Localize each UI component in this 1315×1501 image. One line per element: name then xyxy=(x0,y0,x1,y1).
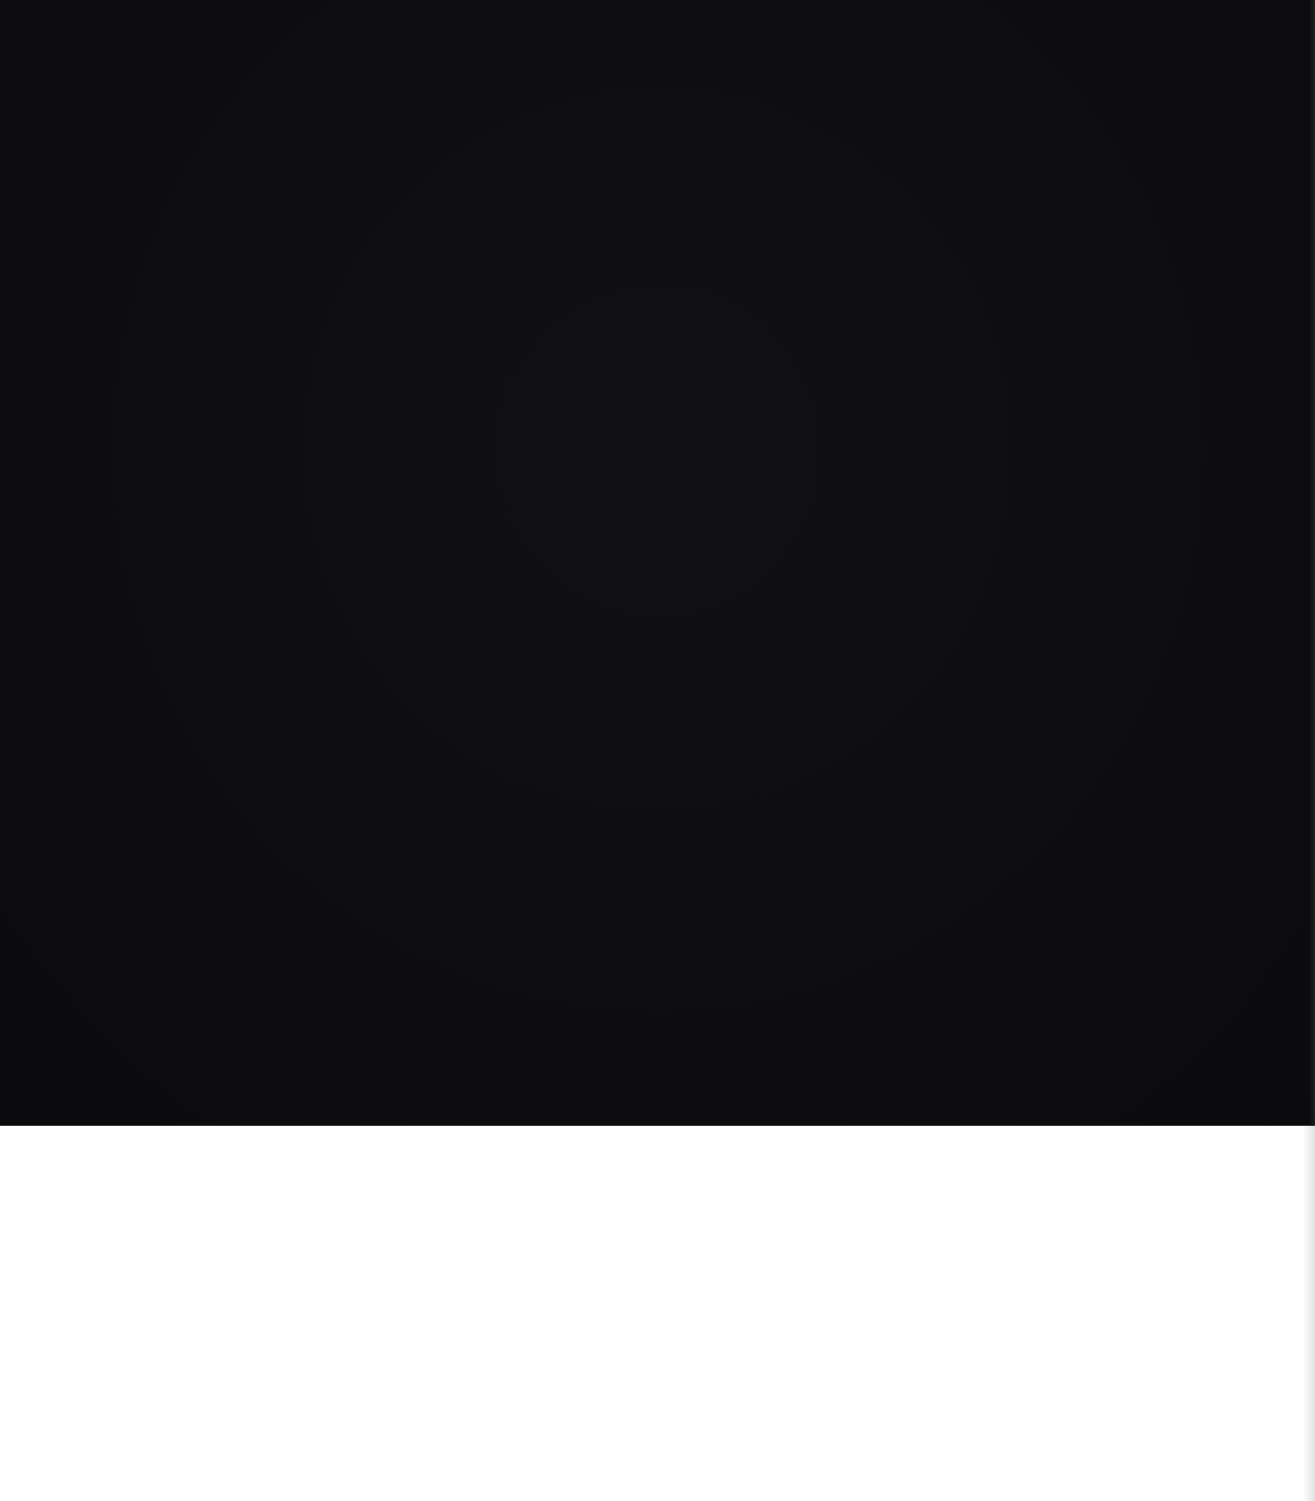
scanned-page xyxy=(0,0,1315,1501)
white-strip xyxy=(0,1125,1315,1501)
black-block xyxy=(0,0,1315,1125)
